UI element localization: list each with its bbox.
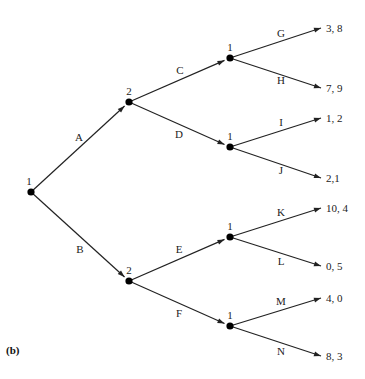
edge-i <box>230 118 321 147</box>
edge-n <box>230 326 321 356</box>
player-label-n2a: 2 <box>126 85 132 97</box>
payoff-t2: 7, 9 <box>326 82 343 94</box>
decision-node-n1c <box>226 233 233 240</box>
payoff-t4: 2,1 <box>326 172 340 184</box>
decision-node-n1b <box>226 143 233 150</box>
edge-h <box>230 58 321 88</box>
edge-label-n: N <box>277 345 285 357</box>
player-label-root: 1 <box>26 175 32 187</box>
edge-label-f: F <box>176 307 182 319</box>
edge-g <box>230 28 321 58</box>
payoff-t6: 0, 5 <box>326 260 343 272</box>
payoff-t8: 8, 3 <box>326 350 343 362</box>
edge-l <box>230 237 321 266</box>
edge-label-m: M <box>276 295 286 307</box>
edge-b <box>31 192 125 277</box>
player-label-n2b: 2 <box>126 264 132 276</box>
edges-layer: ABCDEFGHIJKLMN <box>31 27 321 357</box>
figure-caption: (b) <box>6 344 20 357</box>
decision-node-n1d <box>226 322 233 329</box>
edge-label-c: C <box>176 64 183 76</box>
player-label-n1a: 1 <box>227 41 233 53</box>
edge-j <box>230 147 321 178</box>
edge-label-l: L <box>278 255 285 267</box>
edge-k <box>230 208 321 237</box>
decision-node-root <box>27 188 34 195</box>
edge-label-h: H <box>277 74 285 86</box>
player-label-n1d: 1 <box>227 309 233 321</box>
payoff-t3: 1, 2 <box>326 112 343 124</box>
edge-label-k: K <box>277 206 285 218</box>
edge-label-b: B <box>76 243 83 255</box>
edge-label-e: E <box>176 243 183 255</box>
edge-label-i: I <box>279 116 283 128</box>
nodes-layer: 1221111 <box>26 41 233 330</box>
player-label-n1b: 1 <box>227 130 233 142</box>
player-label-n1c: 1 <box>227 220 233 232</box>
game-tree: ABCDEFGHIJKLMN 1221111 3, 87, 91, 22,110… <box>0 0 365 379</box>
payoff-t7: 4, 0 <box>326 292 343 304</box>
decision-node-n1a <box>226 54 233 61</box>
payoff-t5: 10, 4 <box>326 202 349 214</box>
edge-a <box>31 106 125 192</box>
decision-node-n2b <box>125 277 132 284</box>
payoff-t1: 3, 8 <box>326 22 343 34</box>
edge-label-a: A <box>75 131 83 143</box>
edge-label-j: J <box>279 164 284 176</box>
decision-node-n2a <box>125 98 132 105</box>
edge-label-d: D <box>175 128 183 140</box>
edge-label-g: G <box>277 27 285 39</box>
terminals-layer: 3, 87, 91, 22,110, 40, 54, 08, 3 <box>326 22 349 362</box>
